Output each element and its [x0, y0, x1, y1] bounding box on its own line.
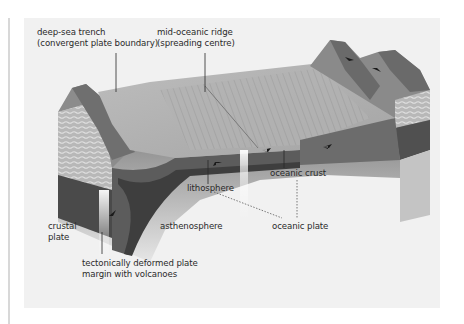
label-lithosphere: lithosphere — [187, 183, 234, 194]
label-plate: plate — [48, 232, 69, 243]
ridge-upwelling — [240, 150, 248, 220]
label-oceanic-crust: oceanic crust — [270, 168, 326, 179]
label-mid-oceanic-ridge: mid-oceanic ridge — [157, 27, 233, 38]
label-deformed-margin: tectonically deformed plate — [82, 258, 198, 269]
label-deep-sea-trench: deep-sea trench — [37, 27, 105, 38]
label-convergent-boundary: (convergent plate boundary) — [37, 38, 158, 49]
label-crustal: crustal — [48, 221, 77, 232]
label-oceanic-plate: oceanic plate — [272, 221, 328, 232]
label-spreading-centre: (spreading centre) — [157, 38, 235, 49]
label-volcanoes: margin with volcanoes — [82, 269, 177, 280]
label-asthenosphere: asthenosphere — [160, 221, 223, 232]
volcano-plume — [99, 190, 109, 260]
